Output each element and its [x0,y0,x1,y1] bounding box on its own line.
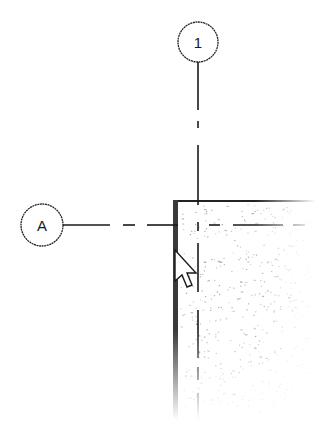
grid-A-label: A [22,205,62,245]
grid-1-label: 1 [178,22,218,62]
wall-fill [180,204,319,424]
wall-left-edge [173,200,178,420]
arrow-cursor-icon [175,250,196,287]
drawing-canvas[interactable]: 1 A [0,0,319,436]
